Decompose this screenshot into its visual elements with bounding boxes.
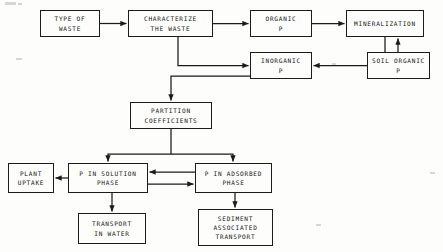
node-label-line: TRANSPORT (92, 219, 132, 228)
node-sediment-associated-transport[interactable]: SEDIMENT ASSOCIATED TRANSPORT (198, 209, 273, 246)
node-label-line: P (279, 24, 283, 33)
node-label-line: SEDIMENT (218, 214, 253, 223)
node-label-line: TRANSPORT (216, 232, 256, 241)
node-organic-p[interactable]: ORGANIC P (250, 10, 312, 37)
node-type-of-waste[interactable]: TYPE OF WASTE (40, 10, 100, 37)
node-plant-uptake[interactable]: PLANT UPTAKE (8, 163, 54, 193)
edge-partition-to-adsorbed (171, 154, 233, 162)
node-label-line: CHARACTERIZE (144, 14, 197, 23)
flowchart-canvas: TYPE OF WASTE CHARACTERIZE THE WASTE ORG… (0, 0, 443, 252)
node-label-line: P (396, 66, 400, 75)
node-label-line: IN WATER (94, 229, 129, 238)
node-label-line: ASSOCIATED (213, 223, 257, 232)
node-label-line: THE WASTE (151, 24, 191, 33)
node-label-line: SOIL ORGANIC (372, 56, 425, 65)
edge-characterize-to-inorganic (178, 37, 249, 66)
node-label-line: MINERALIZATION (354, 19, 416, 28)
node-transport-in-water[interactable]: TRANSPORT IN WATER (78, 213, 146, 244)
node-p-in-solution-phase[interactable]: P IN SOLUTION PHASE (68, 163, 148, 193)
node-label-line: ORGANIC (266, 14, 297, 23)
node-p-in-adsorbed-phase[interactable]: P IN ADSORBED PHASE (195, 163, 272, 193)
node-label-line: PLANT (20, 169, 42, 178)
node-label-line: P IN SOLUTION (79, 169, 136, 178)
node-label-line: P (279, 66, 283, 75)
node-label-line: P IN ADSORBED (205, 169, 262, 178)
node-label-line: TYPE OF (55, 14, 86, 23)
node-soil-organic-p[interactable]: SOIL ORGANIC P (367, 52, 430, 79)
node-label-line: PARTITION (151, 106, 191, 115)
node-label-line: UPTAKE (18, 178, 45, 187)
node-label-line: INORGANIC (261, 56, 301, 65)
node-characterize-waste[interactable]: CHARACTERIZE THE WASTE (128, 10, 213, 37)
node-mineralization[interactable]: MINERALIZATION (346, 10, 424, 37)
node-inorganic-p[interactable]: INORGANIC P (250, 52, 312, 79)
node-label-line: PHASE (222, 178, 244, 187)
node-label-line: PHASE (97, 178, 119, 187)
edge-inorganic-to-partition (171, 76, 250, 101)
edge-partition-to-solution (108, 129, 171, 162)
node-label-line: COEFFICIENTS (144, 116, 197, 125)
node-partition-coefficients[interactable]: PARTITION COEFFICIENTS (130, 102, 212, 129)
node-label-line: WASTE (59, 24, 81, 33)
